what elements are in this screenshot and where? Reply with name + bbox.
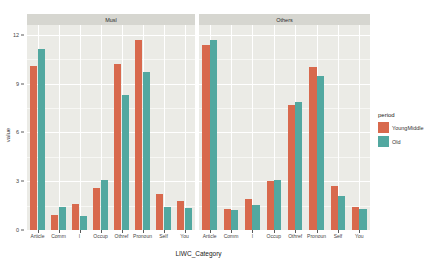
bar bbox=[295, 102, 302, 230]
bar bbox=[274, 180, 281, 230]
y-axis-ticks: 036912 bbox=[0, 0, 26, 269]
bar bbox=[309, 67, 316, 230]
x-tick-mark bbox=[101, 230, 102, 233]
legend-title: period bbox=[378, 112, 424, 118]
bar-group-left bbox=[27, 25, 195, 230]
x-tick-mark bbox=[210, 230, 211, 233]
facet-strip-label-right: Others bbox=[199, 14, 370, 25]
x-tick-mark bbox=[38, 230, 39, 233]
x-tick-mark bbox=[80, 230, 81, 233]
x-tick-label: Comm bbox=[51, 233, 66, 239]
y-tick-mark bbox=[21, 132, 24, 133]
bar bbox=[114, 64, 121, 230]
x-tick-mark bbox=[231, 230, 232, 233]
gridline-major bbox=[27, 230, 195, 231]
bar bbox=[331, 186, 338, 230]
legend-label-old: Old bbox=[392, 139, 401, 145]
chart-root: value 036912 Musl Others ArticleCommIOcc… bbox=[0, 0, 433, 269]
bar bbox=[51, 215, 58, 230]
x-tick-label: Self bbox=[159, 233, 168, 239]
bar bbox=[359, 209, 366, 230]
bar bbox=[59, 207, 66, 230]
y-tick-label: 9 bbox=[16, 81, 19, 87]
x-tick-label: Pronoun bbox=[133, 233, 152, 239]
bar bbox=[135, 40, 142, 230]
y-tick-mark bbox=[21, 230, 24, 231]
legend: period YoungMiddle Old bbox=[378, 112, 424, 150]
y-tick-mark bbox=[21, 181, 24, 182]
legend-label-youngmiddle: YoungMiddle bbox=[392, 125, 424, 131]
bar bbox=[72, 204, 79, 230]
plot-area: Musl Others bbox=[27, 14, 370, 230]
bar bbox=[231, 210, 238, 230]
bar bbox=[202, 45, 209, 230]
legend-item-youngmiddle[interactable]: YoungMiddle bbox=[378, 122, 424, 133]
bar bbox=[224, 209, 231, 230]
x-tick-mark bbox=[143, 230, 144, 233]
gridline-major bbox=[199, 230, 370, 231]
facet-panel-left: Musl bbox=[27, 14, 195, 230]
legend-item-old[interactable]: Old bbox=[378, 136, 424, 147]
x-tick-label: Comm bbox=[224, 233, 239, 239]
panel-body-left bbox=[27, 25, 195, 230]
bar-group-right bbox=[199, 25, 370, 230]
bar bbox=[185, 208, 192, 230]
bar bbox=[267, 181, 274, 230]
bar bbox=[30, 66, 37, 230]
bar bbox=[317, 76, 324, 230]
x-tick-mark bbox=[122, 230, 123, 233]
bar bbox=[122, 95, 129, 230]
x-tick-label: Article bbox=[203, 233, 217, 239]
x-tick-mark bbox=[164, 230, 165, 233]
y-tick-mark bbox=[21, 83, 24, 84]
x-tick-label: Self bbox=[334, 233, 343, 239]
x-tick-label: Occup bbox=[267, 233, 281, 239]
x-tick-mark bbox=[295, 230, 296, 233]
y-tick-label: 6 bbox=[16, 129, 19, 135]
bar bbox=[245, 199, 252, 230]
bar bbox=[210, 40, 217, 230]
x-tick-label: I bbox=[252, 233, 253, 239]
x-tick-mark bbox=[274, 230, 275, 233]
bar bbox=[143, 72, 150, 230]
facet-strip-label-left: Musl bbox=[27, 14, 195, 25]
y-tick-label: 12 bbox=[13, 32, 19, 38]
x-tick-label: Pronoun bbox=[307, 233, 326, 239]
x-tick-label: Othref bbox=[115, 233, 129, 239]
x-tick-mark bbox=[252, 230, 253, 233]
legend-swatch-icon-youngmiddle bbox=[378, 122, 389, 133]
x-tick-label: Othref bbox=[288, 233, 302, 239]
bar bbox=[156, 194, 163, 230]
bar bbox=[101, 180, 108, 230]
bar bbox=[252, 205, 259, 230]
bar bbox=[288, 105, 295, 230]
x-tick-mark bbox=[317, 230, 318, 233]
x-axis-title: LIWC_Category bbox=[27, 250, 370, 257]
x-tick-label: Occup bbox=[93, 233, 107, 239]
bar bbox=[352, 207, 359, 230]
panel-body-right bbox=[199, 25, 370, 230]
x-tick-label: You bbox=[180, 233, 188, 239]
y-tick-label: 0 bbox=[16, 227, 19, 233]
x-tick-label: You bbox=[355, 233, 363, 239]
bar bbox=[164, 207, 171, 230]
x-tick-mark bbox=[338, 230, 339, 233]
bar bbox=[177, 201, 184, 230]
x-tick-label: Article bbox=[31, 233, 45, 239]
legend-swatch-icon-old bbox=[378, 136, 389, 147]
bar bbox=[338, 196, 345, 230]
y-tick-label: 3 bbox=[16, 178, 19, 184]
x-tick-mark bbox=[59, 230, 60, 233]
x-tick-mark bbox=[185, 230, 186, 233]
bar bbox=[80, 216, 87, 230]
bar bbox=[38, 49, 45, 230]
facet-panel-right: Others bbox=[199, 14, 370, 230]
x-tick-label: I bbox=[79, 233, 80, 239]
bar bbox=[93, 188, 100, 230]
x-tick-mark bbox=[359, 230, 360, 233]
y-tick-mark bbox=[21, 34, 24, 35]
